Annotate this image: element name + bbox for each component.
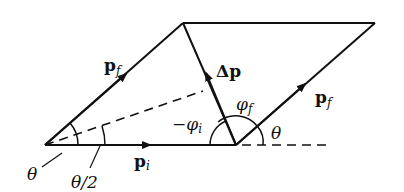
pf-right-label: pf bbox=[315, 87, 334, 110]
theta-arc-right bbox=[258, 127, 263, 145]
theta-leader bbox=[42, 153, 62, 167]
theta-half-arc bbox=[102, 126, 105, 145]
phi-i-label: −φi bbox=[172, 114, 202, 136]
momentum-diagram: pf pf pi Δp −φi φf θ θ θ/2 bbox=[0, 0, 404, 192]
theta-half-label: θ/2 bbox=[71, 172, 98, 192]
phi-i-arc bbox=[210, 121, 226, 145]
delta-p-label: Δp bbox=[216, 61, 241, 81]
pf-left-arrow bbox=[45, 74, 126, 145]
theta-half-leader bbox=[90, 146, 100, 168]
phi-f-label: φf bbox=[236, 94, 255, 116]
theta-arc-left bbox=[70, 123, 78, 145]
theta-left-label: θ bbox=[27, 164, 37, 184]
delta-p-arrow bbox=[206, 73, 236, 145]
pf-left-label: pf bbox=[104, 55, 123, 78]
theta-right-label: θ bbox=[271, 123, 281, 143]
pi-label: pi bbox=[134, 151, 150, 173]
